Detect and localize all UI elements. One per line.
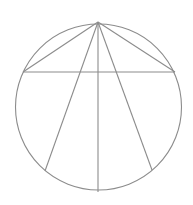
chord-apex-left — [23, 22, 98, 72]
chord-apex-lower-right — [98, 22, 152, 170]
geometry-diagram — [0, 0, 193, 205]
chord-apex-lower-left — [45, 22, 98, 171]
chord-apex-right — [98, 22, 175, 72]
